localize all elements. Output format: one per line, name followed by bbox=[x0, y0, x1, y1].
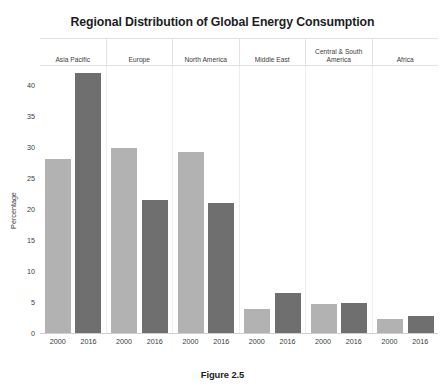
cut-off-text-sliver: · , ,· · , · , bbox=[0, 0, 445, 9]
bar-central-south-america-2016 bbox=[341, 303, 367, 333]
y-tick-label: 0 bbox=[31, 329, 35, 338]
bar-africa-2016 bbox=[408, 316, 434, 333]
facet-header-1: Asia Pacific bbox=[40, 38, 107, 65]
facet-header-5: Central & South America bbox=[306, 38, 373, 65]
facet-header-label: North America bbox=[185, 56, 227, 64]
x-tick-label: 2016 bbox=[208, 337, 234, 351]
bar-middle-east-2000 bbox=[244, 309, 270, 333]
panel-1 bbox=[40, 66, 107, 333]
panel-bars bbox=[373, 66, 439, 333]
x-axis: 2000201620002016200020162000201620002016… bbox=[40, 337, 438, 351]
bar-north-america-2000 bbox=[178, 152, 204, 333]
bar-africa-2000 bbox=[377, 319, 403, 333]
x-axis-group-1: 20002016 bbox=[40, 337, 106, 351]
x-axis-group-5: 20002016 bbox=[305, 337, 371, 351]
facet-panels bbox=[40, 66, 438, 333]
x-tick-label: 2000 bbox=[244, 337, 270, 351]
x-axis-group-4: 20002016 bbox=[239, 337, 305, 351]
facet-header-label: Central & South America bbox=[306, 48, 372, 64]
bar-asia-pacific-2016 bbox=[75, 73, 101, 333]
figure-caption: Figure 2.5 bbox=[0, 369, 445, 380]
facet-header-4: Middle East bbox=[240, 38, 307, 65]
panel-2 bbox=[107, 66, 174, 333]
bar-north-america-2016 bbox=[208, 203, 234, 333]
facet-header-6: Africa bbox=[373, 38, 439, 65]
x-axis-group-3: 20002016 bbox=[173, 337, 239, 351]
panel-6 bbox=[373, 66, 439, 333]
y-tick-label: 20 bbox=[27, 204, 35, 213]
panel-bars bbox=[240, 66, 306, 333]
facet-header-label: Asia Pacific bbox=[55, 56, 90, 64]
bar-europe-2016 bbox=[142, 200, 168, 333]
x-tick-label: 2016 bbox=[142, 337, 168, 351]
y-tick-label: 30 bbox=[27, 142, 35, 151]
y-tick-label: 25 bbox=[27, 173, 35, 182]
facet-header-label: Middle East bbox=[255, 56, 290, 64]
x-tick-label: 2000 bbox=[177, 337, 203, 351]
y-axis: 0510152025303540Percentage bbox=[0, 38, 40, 334]
facet-header-label: Europe bbox=[128, 56, 150, 64]
y-tick-label: 40 bbox=[27, 80, 35, 89]
facet-header-label: Africa bbox=[397, 56, 414, 64]
panel-bars bbox=[173, 66, 239, 333]
x-axis-group-6: 20002016 bbox=[372, 337, 438, 351]
x-tick-label: 2016 bbox=[407, 337, 433, 351]
facet-header-3: North America bbox=[173, 38, 240, 65]
facet-header-2: Europe bbox=[107, 38, 174, 65]
panel-5 bbox=[306, 66, 373, 333]
bar-europe-2000 bbox=[111, 148, 137, 333]
bar-central-south-america-2000 bbox=[311, 304, 337, 333]
bar-middle-east-2016 bbox=[275, 293, 301, 333]
y-tick-label: 5 bbox=[31, 297, 35, 306]
panel-bars bbox=[107, 66, 173, 333]
x-axis-group-2: 20002016 bbox=[106, 337, 172, 351]
x-tick-label: 2016 bbox=[76, 337, 102, 351]
facet-header-strip: Asia PacificEuropeNorth AmericaMiddle Ea… bbox=[40, 38, 438, 65]
panel-4 bbox=[240, 66, 307, 333]
panel-3 bbox=[173, 66, 240, 333]
y-tick-label: 10 bbox=[27, 266, 35, 275]
x-tick-label: 2000 bbox=[45, 337, 71, 351]
x-tick-label: 2000 bbox=[310, 337, 336, 351]
x-tick-label: 2000 bbox=[376, 337, 402, 351]
panel-bars bbox=[306, 66, 372, 333]
chart-title: Regional Distribution of Global Energy C… bbox=[0, 15, 445, 29]
y-axis-title: Percentage bbox=[9, 156, 18, 266]
y-tick-label: 15 bbox=[27, 235, 35, 244]
bar-asia-pacific-2000 bbox=[45, 159, 71, 333]
x-tick-label: 2000 bbox=[111, 337, 137, 351]
x-tick-label: 2016 bbox=[275, 337, 301, 351]
panel-bars bbox=[40, 66, 106, 333]
plot-area: Asia PacificEuropeNorth AmericaMiddle Ea… bbox=[40, 38, 438, 334]
x-tick-label: 2016 bbox=[341, 337, 367, 351]
x-axis-baseline bbox=[40, 333, 438, 334]
y-tick-label: 35 bbox=[27, 111, 35, 120]
